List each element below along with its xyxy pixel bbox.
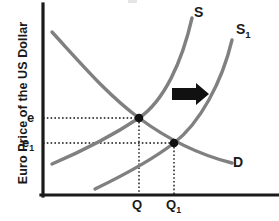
y-tick-label-e1: e1 <box>22 136 34 152</box>
x-tick-label-q1-text: Q <box>166 197 176 212</box>
curve-label-supply-text: S <box>194 4 203 20</box>
x-tick-label-q1-sub: 1 <box>176 205 181 215</box>
supply-demand-chart: Euro Price of the US Dollar S S1 D e e1 … <box>0 0 279 221</box>
x-tick-label-q-text: Q <box>132 197 142 212</box>
y-tick-label-e: e <box>27 111 34 124</box>
equilibrium-point-new <box>170 139 179 148</box>
equilibrium-point-original <box>135 114 144 123</box>
curve-label-demand-text: D <box>233 154 243 170</box>
supply-curve-shifted <box>95 40 232 189</box>
shift-arrow-icon <box>172 83 209 105</box>
curve-label-supply: S <box>194 5 203 19</box>
y-tick-label-e-text: e <box>27 110 34 125</box>
curve-label-supply-shifted-sub: 1 <box>245 29 250 40</box>
curve-label-demand: D <box>233 155 243 169</box>
curve-label-supply-shifted-text: S <box>236 21 245 37</box>
y-tick-label-e1-sub: 1 <box>29 143 34 153</box>
x-tick-label-q1: Q1 <box>166 198 181 214</box>
x-tick-label-q: Q <box>132 198 142 211</box>
curve-label-supply-shifted: S1 <box>236 22 251 39</box>
y-axis-title: Euro Price of the US Dollar <box>16 8 30 198</box>
